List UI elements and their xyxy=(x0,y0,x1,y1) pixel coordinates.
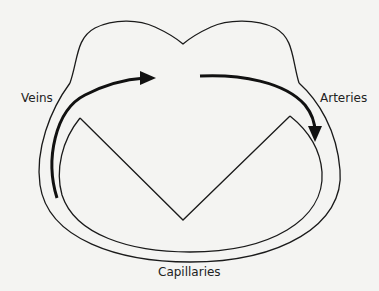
heart-outline xyxy=(70,21,299,83)
veins-label: Veins xyxy=(21,91,53,105)
arrowhead-icon xyxy=(140,71,156,85)
capillaries-label: Capillaries xyxy=(158,265,221,279)
arteries-label: Arteries xyxy=(320,91,367,105)
outer-vessel-loop xyxy=(39,83,340,262)
arrowhead-icon xyxy=(308,126,322,142)
circulation-diagram xyxy=(0,0,379,291)
venous-flow-arrow xyxy=(52,78,145,198)
heart-inner-v xyxy=(80,116,290,220)
